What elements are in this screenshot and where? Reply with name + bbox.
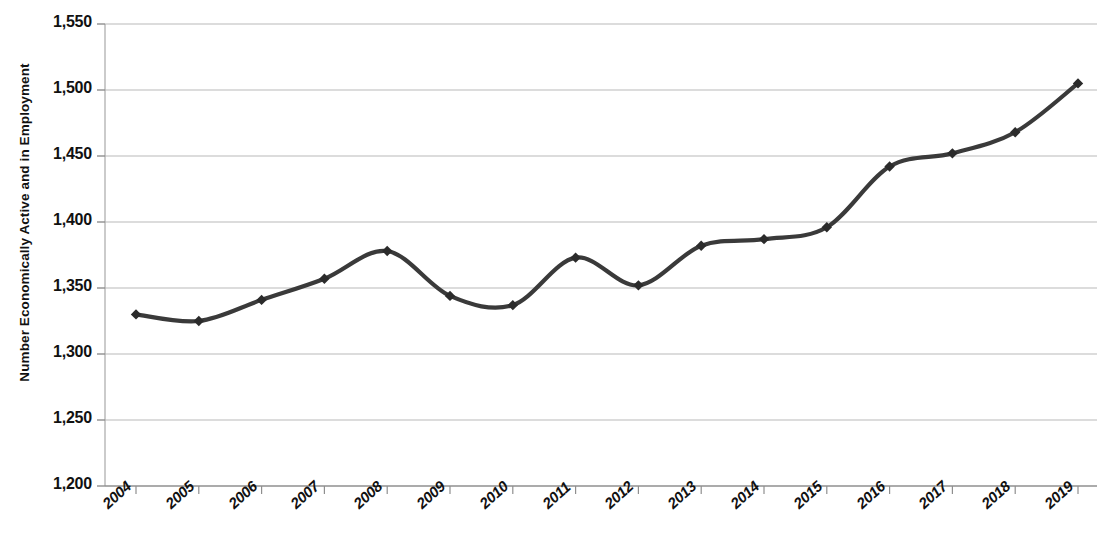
data-point-marker xyxy=(947,148,957,158)
data-point-marker xyxy=(570,252,580,262)
data-point-marker xyxy=(382,246,392,256)
data-point-marker xyxy=(633,280,643,290)
y-axis-tick-marks xyxy=(97,24,105,486)
data-series-line xyxy=(136,83,1078,321)
plot-area xyxy=(0,0,1097,537)
line-chart: Number Economically Active and in Employ… xyxy=(0,0,1097,537)
data-point-marker xyxy=(131,309,141,319)
data-point-marker xyxy=(256,295,266,305)
data-point-marker xyxy=(759,234,769,244)
gridlines xyxy=(105,24,1097,420)
data-point-marker xyxy=(194,316,204,326)
data-point-markers xyxy=(131,78,1083,326)
